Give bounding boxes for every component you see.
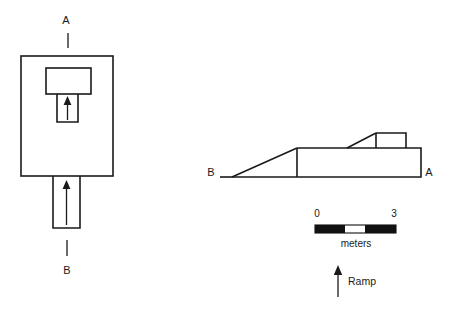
scale-bar-segments (315, 225, 396, 233)
elevation-label-b: B (207, 166, 214, 178)
ramp-arrow-icon (334, 265, 342, 297)
section-marker-b-bottom: B (63, 240, 70, 276)
elevation-upper-ramp (347, 133, 376, 148)
figure-svg: A B (0, 0, 455, 315)
section-label-a-top: A (62, 14, 70, 26)
plan-view: A B (21, 14, 113, 276)
ramp-label: Ramp (348, 275, 376, 287)
scale-segment-3 (365, 225, 396, 233)
plan-inner-arrow-icon (64, 96, 72, 120)
scale-unit-label: meters (341, 238, 372, 249)
scale-label-end: 3 (391, 208, 397, 219)
plan-lower-arrow-icon (63, 180, 71, 225)
scale-bar: 0 3 meters (314, 208, 397, 249)
section-marker-a-top: A (62, 14, 70, 48)
elevation-platform (232, 148, 421, 177)
scale-label-start: 0 (314, 208, 320, 219)
elevation-upper-block (376, 133, 406, 148)
scale-segment-2 (345, 225, 365, 233)
plan-inner-chamber (46, 68, 91, 94)
elevation-label-a: A (425, 166, 433, 178)
section-label-b-bottom: B (63, 264, 70, 276)
ramp-annotation: Ramp (334, 265, 376, 297)
elevation-view: B A (207, 133, 433, 178)
figure-root: A B (0, 0, 455, 315)
elevation-ramp-slope (232, 148, 297, 177)
scale-segment-1 (315, 225, 345, 233)
